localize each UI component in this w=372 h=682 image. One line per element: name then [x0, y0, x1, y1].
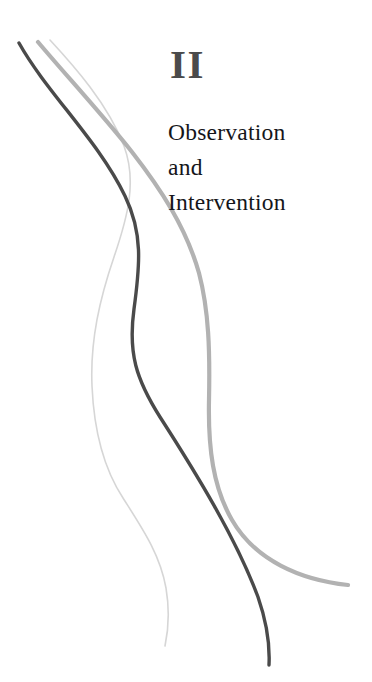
- curve-light-gray-icon: [50, 40, 168, 646]
- part-numeral: II: [170, 44, 368, 85]
- page-title: Observation and Intervention: [168, 115, 368, 219]
- part-title-page: II Observation and Intervention: [0, 0, 372, 682]
- part-title-block: II Observation and Intervention: [168, 44, 368, 219]
